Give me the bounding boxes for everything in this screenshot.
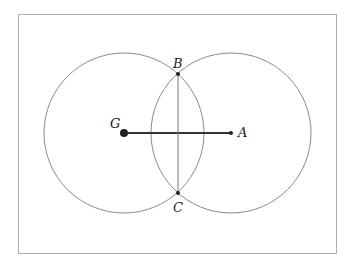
point-B bbox=[176, 72, 180, 76]
label-A: A bbox=[237, 125, 247, 140]
label-B: B bbox=[172, 56, 183, 71]
segments-group bbox=[124, 74, 231, 193]
point-A bbox=[229, 131, 233, 135]
label-G: G bbox=[110, 116, 120, 131]
label-C: C bbox=[173, 200, 183, 215]
point-G bbox=[120, 129, 128, 137]
diagram-canvas: GABC bbox=[0, 0, 355, 267]
point-C bbox=[176, 191, 180, 195]
